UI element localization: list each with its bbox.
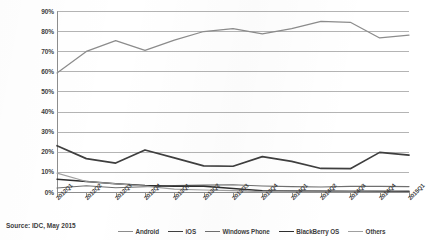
legend-swatch-icon xyxy=(118,231,133,232)
chart-legend: AndroidiOSWindows PhoneBlackBerry OSOthe… xyxy=(118,225,385,237)
legend-swatch-icon xyxy=(279,231,294,232)
legend-swatch-icon xyxy=(205,231,220,232)
y-tick-label: 80% xyxy=(4,28,54,35)
series-line-android xyxy=(57,21,409,72)
y-tick-label: 90% xyxy=(4,8,54,15)
legend-swatch-icon xyxy=(168,231,183,232)
legend-label: Windows Phone xyxy=(223,228,270,235)
legend-label: Others xyxy=(366,228,386,235)
legend-label: BlackBerry OS xyxy=(296,228,339,235)
series-lines xyxy=(57,11,409,192)
legend-swatch-icon xyxy=(348,231,363,232)
y-tick-label: 0% xyxy=(4,189,54,196)
legend-item-others[interactable]: Others xyxy=(348,228,385,235)
y-tick-label: 30% xyxy=(4,128,54,135)
y-tick-label: 40% xyxy=(4,108,54,115)
legend-item-android[interactable]: Android xyxy=(118,228,159,235)
y-tick-label: 50% xyxy=(4,88,54,95)
y-tick-label: 60% xyxy=(4,68,54,75)
source-note: Source: IDC, May 2015 xyxy=(6,222,76,229)
legend-item-windows-phone[interactable]: Windows Phone xyxy=(205,228,270,235)
legend-item-blackberry-os[interactable]: BlackBerry OS xyxy=(279,228,339,235)
y-tick-label: 10% xyxy=(4,168,54,175)
x-axis-labels: 2012Q12012Q22012Q32012Q42013Q12013Q22013… xyxy=(57,197,409,223)
y-tick-label: 70% xyxy=(4,48,54,55)
legend-label: iOS xyxy=(185,228,196,235)
legend-item-ios[interactable]: iOS xyxy=(168,228,196,235)
y-tick-label: 20% xyxy=(4,148,54,155)
series-line-ios xyxy=(57,146,409,169)
legend-label: Android xyxy=(136,228,159,235)
plot-area xyxy=(57,11,409,192)
y-axis-labels: 90%80%70%60%50%40%30%20%10%0% xyxy=(0,11,54,193)
